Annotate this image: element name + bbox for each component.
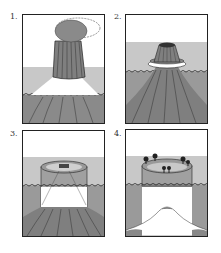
panel-2-fringing-reef (125, 14, 208, 124)
panel-label-2: 2. (114, 12, 122, 21)
panel-3-barrier-reef (22, 130, 105, 237)
panel-label-1: 1. (10, 12, 18, 21)
atoll-illustration (126, 130, 207, 236)
panel-4-atoll (125, 129, 208, 237)
volcano-illustration (23, 15, 104, 123)
panel-label-4: 4. (114, 129, 122, 138)
panel-1-volcano (22, 14, 105, 124)
fringing-reef-illustration (126, 15, 207, 123)
panel-label-3: 3. (10, 129, 18, 138)
barrier-reef-illustration (23, 131, 104, 236)
